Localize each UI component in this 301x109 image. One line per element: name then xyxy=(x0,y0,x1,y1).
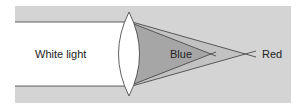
chromatic-aberration-diagram: White light Blue Red xyxy=(0,0,301,109)
label-red: Red xyxy=(262,48,282,60)
label-white-light: White light xyxy=(35,48,86,60)
label-blue: Blue xyxy=(170,48,192,60)
